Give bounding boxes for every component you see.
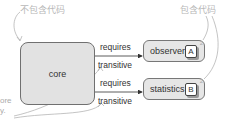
jar-a-icon: A bbox=[185, 45, 197, 58]
edge-modifier-transitive-observer: transitive bbox=[98, 60, 132, 70]
partial-annotation-text: ore bbox=[0, 96, 12, 105]
core-module-node: core bbox=[20, 42, 95, 105]
partial-annotation-text-2: y. bbox=[0, 106, 6, 115]
observer-label: observer bbox=[150, 46, 185, 56]
observer-module-node: observer A 2 bbox=[143, 40, 205, 62]
statistics-module-node: statistics B 2 bbox=[143, 78, 205, 100]
corner-mark-icon: 2 bbox=[200, 40, 203, 46]
edge-modifier-transitive-statistics: transitive bbox=[98, 96, 132, 106]
annotation-has-code: 包含代码 bbox=[180, 3, 216, 16]
annotation-no-code: 不包含代码 bbox=[20, 3, 65, 16]
core-label: core bbox=[49, 69, 67, 79]
statistics-label: statistics bbox=[150, 84, 185, 94]
edge-label-requires-observer: requires bbox=[100, 42, 131, 52]
jar-b-icon: B bbox=[185, 83, 197, 96]
corner-mark-icon: 2 bbox=[200, 78, 203, 84]
edge-label-requires-statistics: requires bbox=[100, 78, 131, 88]
